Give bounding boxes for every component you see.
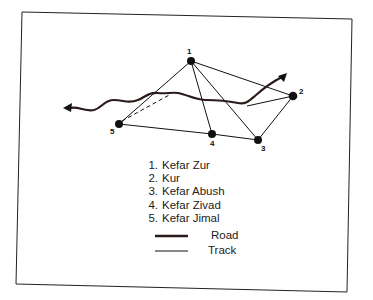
node-2 [289,92,298,101]
node-1 [187,57,195,65]
map-canvas: 1 2 3 4 5 [0,0,373,300]
node-5 [115,120,123,128]
legend-road-label: Road [211,229,239,241]
node-4 [208,130,216,138]
node-label-2: 2 [299,87,304,96]
node-label-3: 3 [261,144,266,153]
legend-item: 5.Kefar Jimal [144,212,225,225]
legend-item: 4.Kefar Zivad [144,199,225,212]
node-label-4: 4 [210,139,215,148]
place-legend: 1.Kefar Zur 2.Kur 3.Kefar Abush 4.Kefar … [144,159,225,225]
diagram-frame: 1 2 3 4 5 1.Kefar Zur 2.Kur 3.Kefar Abus… [0,0,373,300]
frame-border [16,12,352,292]
node-label-1: 1 [187,47,192,56]
node-label-5: 5 [110,127,115,136]
node-3 [254,136,262,144]
legend-item: 3.Kefar Abush [144,185,225,198]
legend-item: 2.Kur [144,172,225,185]
legend-item: 1.Kefar Zur [144,159,225,172]
legend-track-label: Track [208,244,236,256]
